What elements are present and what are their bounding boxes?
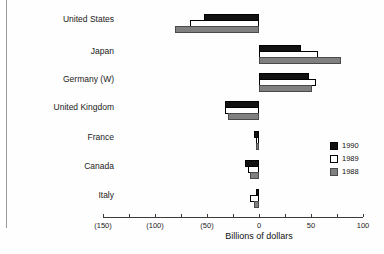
chart-container: United States Japan Germany (W) United K… — [0, 0, 384, 254]
x-tick--100 — [155, 214, 156, 217]
legend: 1990 1989 1988 — [330, 140, 359, 179]
x-tick-50 — [311, 214, 312, 217]
category-label-canada-wrap: Canada — [10, 161, 114, 171]
x-tick--50 — [207, 214, 208, 217]
legend-label-1989: 1989 — [342, 154, 359, 163]
category-label-united-kingdom: United Kingdom — [10, 102, 114, 112]
legend-item-1990: 1990 — [330, 140, 359, 151]
legend-item-1989: 1989 — [330, 153, 359, 164]
category-label-united-states-wrap: United States — [10, 14, 114, 24]
legend-item-1988: 1988 — [330, 166, 359, 177]
x-tick-100 — [363, 214, 364, 217]
x-tick--25 — [233, 214, 234, 217]
legend-swatch-1988-icon — [330, 168, 338, 176]
category-label-united-kingdom-wrap: United Kingdom — [10, 102, 114, 112]
plot-area: United States Japan Germany (W) United K… — [0, 0, 384, 254]
x-tick-label-50: 50 — [307, 221, 315, 230]
x-tick-0 — [259, 214, 260, 217]
category-label-france-wrap: France — [10, 132, 114, 142]
bar-united-states-1988 — [175, 26, 259, 33]
x-tick-75 — [337, 214, 338, 217]
x-axis-title: Billions of dollars — [225, 231, 293, 241]
x-tick-label-100: 100 — [357, 221, 370, 230]
x-tick--75 — [181, 214, 182, 217]
category-label-canada: Canada — [10, 161, 114, 171]
category-label-france: France — [10, 132, 114, 142]
bar-japan-1988 — [259, 57, 341, 64]
bar-germany-w-1988 — [259, 85, 312, 92]
x-tick-label--100: (100) — [146, 221, 164, 230]
category-label-japan: Japan — [10, 46, 114, 56]
x-tick-label-0: 0 — [257, 221, 261, 230]
category-label-italy: Italy — [10, 190, 114, 200]
legend-label-1988: 1988 — [342, 167, 359, 176]
x-tick-label--50: (50) — [200, 221, 213, 230]
category-label-italy-wrap: Italy — [10, 190, 114, 200]
bar-united-kingdom-1988 — [228, 113, 259, 120]
x-tick--150 — [103, 214, 104, 217]
bar-canada-1988 — [250, 172, 259, 179]
x-axis-line — [103, 217, 363, 218]
x-tick-25 — [285, 214, 286, 217]
legend-label-1990: 1990 — [342, 141, 359, 150]
legend-swatch-1989-icon — [330, 155, 338, 163]
legend-swatch-1990-icon — [330, 142, 338, 150]
category-label-united-states: United States — [10, 14, 114, 24]
bar-france-1988 — [256, 143, 259, 150]
bar-italy-1988 — [254, 201, 259, 208]
category-label-germany-w: Germany (W) — [10, 74, 114, 84]
category-label-japan-wrap: Japan — [10, 46, 114, 56]
x-tick--125 — [129, 214, 130, 217]
x-tick-label--150: (150) — [94, 221, 112, 230]
category-label-germany-wrap: Germany (W) — [10, 74, 114, 84]
